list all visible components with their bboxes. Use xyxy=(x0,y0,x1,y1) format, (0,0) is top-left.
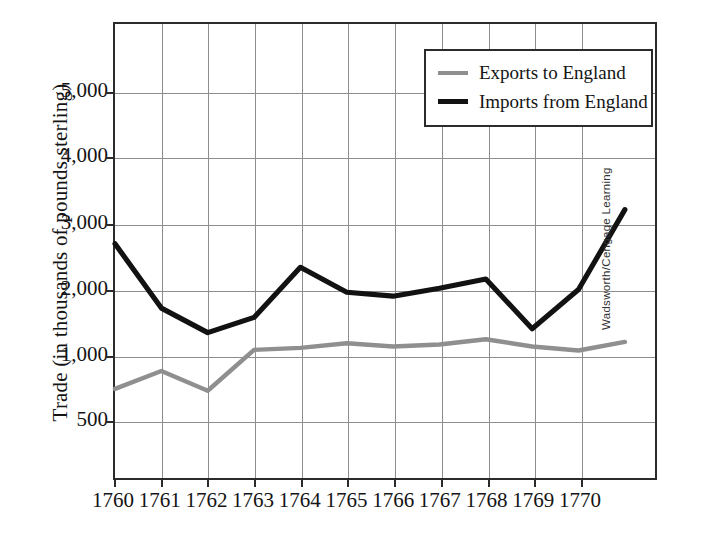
legend-swatch-imports-icon xyxy=(438,99,468,104)
x-axis-tick xyxy=(161,478,163,487)
series-line-exports xyxy=(115,339,625,390)
y-axis-tick-label: 5,000 xyxy=(30,80,108,101)
x-axis-tick xyxy=(114,478,116,487)
x-axis-tick xyxy=(254,478,256,487)
x-axis-tick xyxy=(347,478,349,487)
y-axis-tick-label: 1,000 xyxy=(30,344,108,365)
x-axis-tick-labels: 1760176117621763176417651766176717681769… xyxy=(113,488,657,522)
chart-figure: Trade (in thousands of pounds sterling) … xyxy=(0,0,726,536)
y-axis-tick xyxy=(106,356,115,358)
y-axis-tick xyxy=(106,157,115,159)
x-axis-tick xyxy=(207,478,209,487)
y-axis-tick xyxy=(106,224,115,226)
y-axis-tick-label: 500 xyxy=(30,409,108,430)
plot-area: Exports to England Imports from England xyxy=(113,22,657,480)
x-axis-tick xyxy=(488,478,490,487)
x-axis-tick xyxy=(394,478,396,487)
x-axis-tick-label: 1770 xyxy=(545,488,615,513)
legend-item-exports: Exports to England xyxy=(438,58,639,87)
y-axis-tick-label: 4,000 xyxy=(30,145,108,166)
legend-label-imports: Imports from England xyxy=(479,91,648,113)
legend-swatch-exports-icon xyxy=(438,71,468,75)
y-axis-tick-label: 2,000 xyxy=(30,278,108,299)
y-axis-tick xyxy=(106,92,115,94)
x-axis-tick xyxy=(534,478,536,487)
series-line-imports xyxy=(115,210,625,333)
y-axis-tick-labels: 5,0004,0003,0002,0001,000500 xyxy=(20,0,108,536)
legend-label-exports: Exports to England xyxy=(479,62,626,84)
y-axis-tick xyxy=(106,421,115,423)
y-axis-tick xyxy=(106,290,115,292)
x-axis-tick xyxy=(581,478,583,487)
x-axis-tick xyxy=(301,478,303,487)
y-axis-tick-label: 3,000 xyxy=(30,212,108,233)
credit-text: Wadsworth/Cengage Learning xyxy=(600,100,612,330)
x-axis-tick xyxy=(441,478,443,487)
chart-legend: Exports to England Imports from England xyxy=(424,49,653,127)
